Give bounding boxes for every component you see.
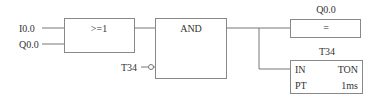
timer-block[interactable]: IN TON PT 1ms [291,61,363,94]
and-block[interactable]: AND [156,19,227,79]
wire-branch-to-timer [259,28,290,69]
timer-in-label: IN [295,64,306,75]
negation-circle-icon [149,65,154,70]
timer-type-label: TON [338,64,358,75]
and-block-label: AND [180,23,202,34]
coil-block[interactable]: = [291,20,361,38]
coil-label: = [323,22,329,33]
or-block[interactable]: >=1 [65,19,135,53]
timer-pt-label: PT [295,80,307,91]
negated-input-label-t34: T34 [121,62,137,73]
timer-name-label: T34 [319,46,335,57]
coil-address-label: Q0.0 [316,4,336,15]
input-label-i0-0: I0.0 [19,23,35,34]
input-label-q0-0: Q0.0 [19,39,39,50]
timer-resolution-label: 1ms [341,80,358,91]
fbd-diagram: I0.0 Q0.0 >=1 AND T34 Q0.0 = T34 IN TON … [0,0,381,103]
or-block-label: >=1 [91,23,107,34]
